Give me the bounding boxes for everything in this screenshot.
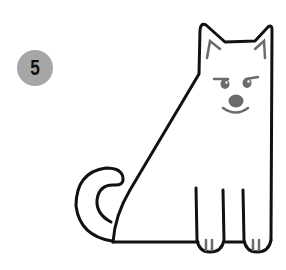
dog-illustration	[0, 0, 286, 270]
left-inner-ear	[207, 41, 220, 58]
right-eye-icon	[243, 78, 252, 88]
dog-outline	[113, 24, 272, 242]
toe-line	[253, 240, 259, 250]
mouth-icon	[223, 108, 248, 113]
right-inner-ear	[255, 41, 265, 58]
left-front-leg	[196, 188, 224, 252]
left-eye-icon	[221, 79, 230, 89]
nose-icon	[229, 95, 244, 108]
right-front-leg	[243, 190, 271, 252]
toe-line	[206, 240, 212, 250]
